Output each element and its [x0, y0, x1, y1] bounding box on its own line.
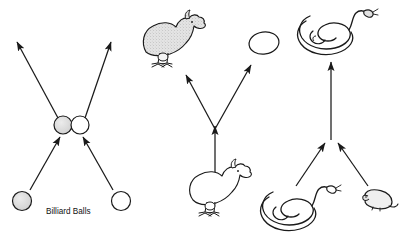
ball-contact-right	[71, 116, 89, 134]
causal-diagram-figure: Billiard Balls	[0, 0, 407, 239]
mouse-eye	[365, 196, 367, 198]
chicken-tailfeather-white	[205, 202, 215, 210]
snake-bottom-head	[327, 186, 336, 193]
chicken-eye-white	[237, 170, 239, 172]
snake-top-head	[364, 10, 373, 17]
ball-lower-left	[13, 192, 32, 211]
ball-contact-left	[54, 116, 72, 134]
chicken-eye-shaded	[191, 21, 193, 23]
chicken-tailfeather-shaded	[158, 53, 168, 61]
figure-root: Billiard Balls	[0, 0, 407, 239]
billiard-panel-caption: Billiard Balls	[46, 207, 91, 216]
ball-lower-right	[112, 192, 131, 211]
